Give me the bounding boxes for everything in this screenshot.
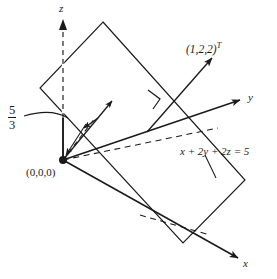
fraction-denominator: 3 [8,119,16,132]
fraction-numerator: 5 [8,104,16,117]
origin-label: (0,0,0) [26,167,55,178]
fraction-leader-line [24,112,68,118]
normal-vector-text: (1,2,2) [186,43,217,55]
equation-leader-line [205,155,216,178]
x-axis-label: x [243,258,248,269]
diagram-svg [0,0,277,279]
dashed-line-lower [140,215,210,235]
z-axis-arrowhead [59,19,67,30]
z-axis-line [59,19,67,160]
x-axis-line [63,160,238,258]
plane-equation-label: x + 2y + 2z = 5 [180,146,249,157]
normal-vector-superscript: T [217,41,221,50]
y-axis-label: y [248,92,253,103]
distance-fraction: 5 3 [8,104,16,132]
origin-point-dot [59,156,67,164]
right-angle-marker [148,90,160,109]
z-axis-label: z [59,3,63,14]
dashed-construction-lines [63,118,218,235]
figure-canvas: z y x (1,2,2)T x + 2y + 2z = 5 (0,0,0) 5… [0,0,277,279]
normal-vector-label: (1,2,2)T [186,42,221,55]
